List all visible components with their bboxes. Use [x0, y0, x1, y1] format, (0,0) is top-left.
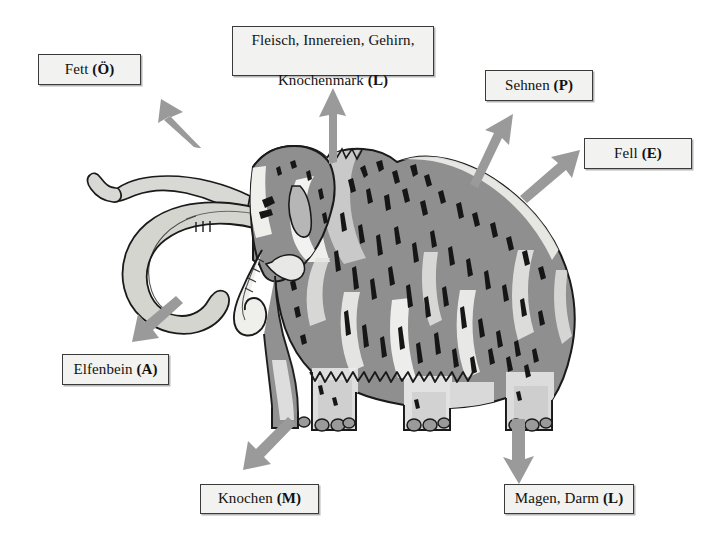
- arrow-fett: [158, 99, 201, 148]
- label-box-fett[interactable]: Fett (Ö): [38, 54, 141, 85]
- label-box-fleisch[interactable]: Fleisch, Innereien, Gehirn, Knochenmark …: [232, 26, 434, 76]
- label-text-knochen: Knochen (M): [218, 489, 301, 509]
- label-text-magen: Magen, Darm (L): [515, 489, 624, 509]
- mammoth-resources-diagram: Fett (Ö) Fleisch, Innereien, Gehirn, Kno…: [0, 0, 715, 536]
- label-box-elfenbein[interactable]: Elfenbein (A): [62, 354, 169, 385]
- arrow-magen: [503, 419, 534, 484]
- label-box-sehnen[interactable]: Sehnen (P): [485, 70, 593, 101]
- label-box-fell[interactable]: Fell (E): [584, 138, 692, 169]
- arrow-elfenbein: [132, 296, 183, 342]
- label-text-sehnen: Sehnen (P): [505, 76, 573, 96]
- label-text-fleisch: Fleisch, Innereien, Gehirn, Knochenmark …: [251, 11, 414, 90]
- arrow-knochen: [243, 417, 296, 470]
- label-text-elfenbein: Elfenbein (A): [73, 360, 157, 380]
- arrow-fleisch: [319, 88, 346, 164]
- label-text-fett: Fett (Ö): [65, 60, 115, 80]
- label-box-knochen[interactable]: Knochen (M): [200, 484, 319, 514]
- arrow-fell: [520, 150, 580, 203]
- label-text-fell: Fell (E): [614, 144, 662, 164]
- arrow-sehnen: [470, 114, 513, 188]
- label-box-magen[interactable]: Magen, Darm (L): [504, 484, 634, 514]
